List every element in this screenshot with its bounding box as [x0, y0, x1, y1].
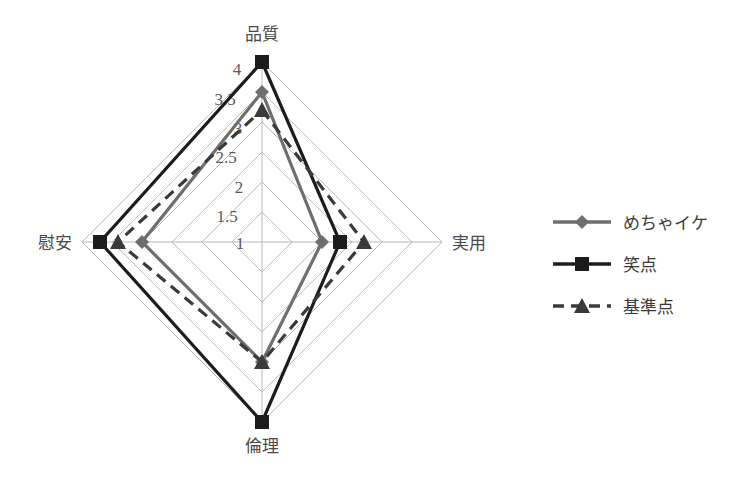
legend-item-2[interactable]: 笑点 [553, 256, 657, 275]
legend-item-label: 笑点 [623, 256, 657, 275]
tick-label-2.5: 2.5 [215, 148, 236, 167]
axis-label-right: 実用 [452, 234, 486, 253]
tick-label-1: 1 [236, 234, 245, 253]
tick-label-4: 4 [233, 60, 242, 79]
series-marker [93, 235, 107, 249]
legend-item-label: めちゃイケ [623, 214, 708, 233]
chart-legend: めちゃイケ笑点基準点 [553, 214, 708, 317]
legend-marker [575, 215, 589, 229]
legend-item-1[interactable]: めちゃイケ [553, 214, 708, 233]
legend-marker [575, 257, 589, 271]
axis-label-left: 慰安 [38, 234, 72, 253]
legend-item-3[interactable]: 基準点 [553, 298, 674, 317]
legend-item-label: 基準点 [623, 298, 674, 317]
axis-label-bottom: 倫理 [245, 437, 279, 456]
radar-chart-svg: 4 3.5 3 2.5 2 1.5 1 品質 実用 倫理 慰安 めちゃイケ笑点基… [0, 0, 735, 479]
tick-label-2: 2 [235, 178, 244, 197]
series-1 [135, 85, 329, 369]
series-marker [255, 415, 269, 429]
radar-chart: 4 3.5 3 2.5 2 1.5 1 品質 実用 倫理 慰安 めちゃイケ笑点基… [0, 0, 735, 479]
series-marker [333, 235, 347, 249]
series-marker [255, 55, 269, 69]
axis-label-top: 品質 [245, 25, 279, 44]
tick-label-1.5: 1.5 [216, 207, 237, 226]
